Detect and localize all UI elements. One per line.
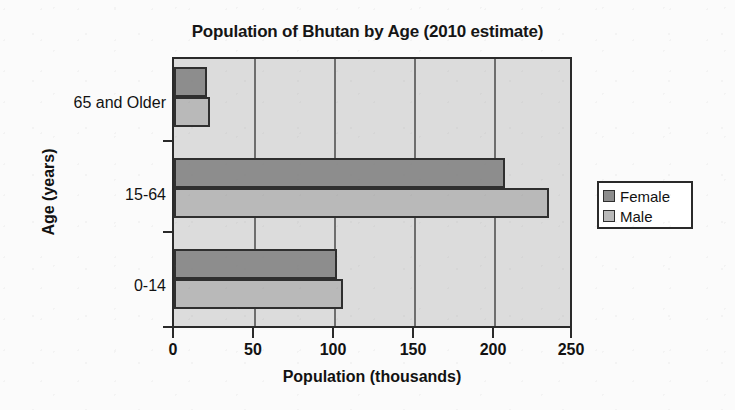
legend-item-male: Male (603, 206, 691, 226)
bar-female-65-and-older (174, 67, 207, 97)
bar-chart: Population of Bhutan by Age (2010 estima… (0, 0, 735, 410)
bar-male-0-14 (174, 279, 343, 309)
legend-label-male: Male (620, 209, 653, 224)
y-tick-label-15-64: 15-64 (0, 186, 166, 204)
x-tick-label-100: 100 (303, 341, 363, 359)
x-tick-label-200: 200 (463, 341, 523, 359)
x-tick-label-0: 0 (143, 341, 203, 359)
y-tick-label-65-and-older: 65 and Older (0, 94, 166, 112)
x-axis-tick (172, 328, 174, 338)
legend-item-female: Female (603, 186, 691, 206)
y-tick-label-0-14: 0-14 (0, 277, 166, 295)
x-axis-tick (332, 328, 334, 338)
x-axis-tick (252, 328, 254, 338)
bar-female-15-64 (174, 158, 505, 188)
bar-male-15-64 (174, 188, 549, 218)
bar-male-65-and-older (174, 97, 210, 127)
x-axis-tick (570, 328, 572, 338)
bars-layer (174, 59, 570, 326)
legend-swatch-female-icon (603, 190, 615, 202)
x-tick-label-250: 250 (541, 341, 601, 359)
legend-label-female: Female (620, 189, 670, 204)
bar-female-0-14 (174, 249, 337, 279)
x-tick-label-50: 50 (223, 341, 283, 359)
legend: Female Male (597, 181, 693, 229)
x-axis-tick (492, 328, 494, 338)
x-tick-label-150: 150 (383, 341, 443, 359)
chart-title: Population of Bhutan by Age (2010 estima… (0, 22, 735, 42)
x-axis-tick (412, 328, 414, 338)
plot-area (172, 57, 572, 328)
x-axis-label: Population (thousands) (172, 368, 572, 386)
legend-swatch-male-icon (603, 210, 615, 222)
